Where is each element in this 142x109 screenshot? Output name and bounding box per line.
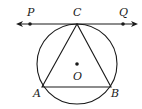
label-p: P	[26, 6, 35, 19]
geometry-diagram: P C Q O A B	[0, 0, 142, 109]
label-c: C	[73, 6, 82, 19]
diagram-canvas: P C Q O A B	[0, 0, 142, 109]
label-o: O	[73, 70, 82, 83]
label-q: Q	[119, 6, 128, 19]
point-q-dot	[121, 22, 125, 26]
point-p-dot	[28, 22, 32, 26]
point-o-dot	[75, 62, 79, 66]
label-a: A	[32, 87, 41, 100]
label-b: B	[110, 87, 119, 100]
